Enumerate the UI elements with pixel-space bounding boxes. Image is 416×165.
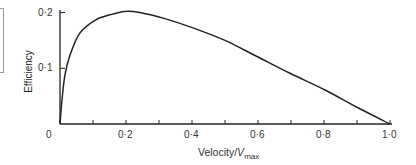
y-axis-label: Efficiency	[23, 42, 34, 102]
x-tick-label: 0·6	[250, 129, 264, 140]
x-tick-label: 0	[46, 129, 52, 140]
x-tick-label: 1·0	[382, 129, 396, 140]
x-tick-label: 0·8	[316, 129, 330, 140]
x-tick-label: 0·2	[118, 129, 132, 140]
efficiency-curve	[60, 11, 390, 124]
y-tick-label: 0·1	[38, 62, 52, 73]
x-tick-label: 0·4	[184, 129, 198, 140]
x-axis-label: Velocity/Vmax	[198, 146, 259, 161]
y-tick-label: 0·2	[38, 7, 52, 18]
chart-plot	[0, 0, 416, 165]
